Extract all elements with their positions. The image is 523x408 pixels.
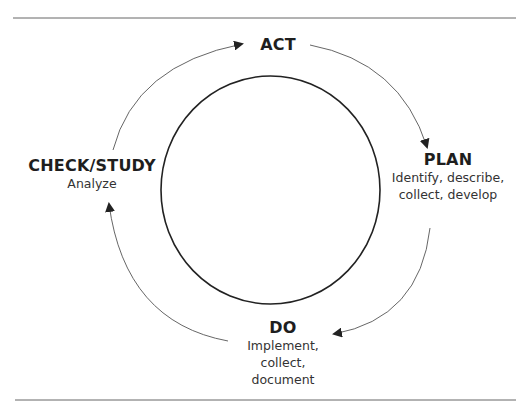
stage-do-title: DO xyxy=(247,318,319,337)
arrow-do-to-check xyxy=(109,204,228,341)
arrow-check-to-act xyxy=(113,44,242,150)
stage-plan: PLAN Identify, describe, collect, develo… xyxy=(392,150,504,203)
arrow-plan-to-do xyxy=(334,228,430,334)
stage-check: CHECK/STUDY Analyze xyxy=(28,156,155,192)
stage-do: DO Implement, collect, document xyxy=(247,318,319,388)
stage-plan-title: PLAN xyxy=(392,150,504,169)
stage-plan-desc-line-2: collect, develop xyxy=(392,186,504,203)
arrow-act-to-plan xyxy=(310,45,427,147)
stage-act-title: ACT xyxy=(260,35,296,54)
stage-plan-desc-line-1: Identify, describe, xyxy=(392,169,504,186)
stage-check-desc-line-1: Analyze xyxy=(28,175,155,192)
stage-do-desc-line-1: Implement, xyxy=(247,337,319,354)
stage-act: ACT xyxy=(260,35,296,54)
stage-do-desc-line-3: document xyxy=(247,371,319,388)
center-circle xyxy=(161,76,380,304)
stage-check-title: CHECK/STUDY xyxy=(28,156,155,175)
stage-do-desc-line-2: collect, xyxy=(247,354,319,371)
